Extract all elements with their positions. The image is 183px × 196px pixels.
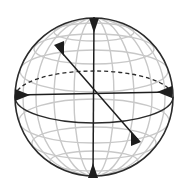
vertical-axis [93,17,94,178]
arrowhead-top-icon [89,18,99,33]
arrowhead-diagonal-upper-icon [54,41,64,56]
sphere-svg [0,0,183,196]
sphere-diagram [0,0,183,196]
